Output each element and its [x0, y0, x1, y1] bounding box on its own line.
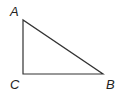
vertex-label-b: B: [106, 77, 115, 92]
vertex-label-c: C: [10, 77, 20, 92]
triangle-diagram: A C B: [0, 0, 120, 95]
triangle-abc: [23, 20, 103, 74]
vertex-label-a: A: [9, 4, 19, 19]
